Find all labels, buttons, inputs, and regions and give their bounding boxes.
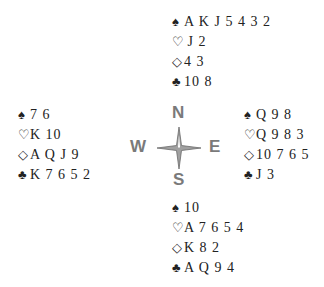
north-diamonds: ◇4 3 [172, 52, 271, 72]
heart-icon: ♡ [18, 125, 30, 145]
diamond-icon: ◇ [172, 52, 184, 72]
south-hand: ♠10 ♡A 7 6 5 4 ◇K 8 2 ♣A Q 9 4 [172, 198, 244, 278]
heart-icon: ♡ [244, 125, 256, 145]
spade-icon: ♠ [244, 105, 256, 125]
east-hand: ♠Q 9 8 ♡Q 9 8 3 ◇10 7 6 5 ♣J 3 [244, 105, 310, 185]
north-spades: ♠A K J 5 4 3 2 [172, 12, 271, 32]
spade-icon: ♠ [18, 105, 30, 125]
west-diamonds: ◇A Q J 9 [18, 145, 91, 165]
west-clubs: ♣K 7 6 5 2 [18, 165, 91, 185]
south-hearts: ♡A 7 6 5 4 [172, 218, 244, 238]
east-spades: ♠Q 9 8 [244, 105, 310, 125]
north-hand: ♠A K J 5 4 3 2 ♡ J 2 ◇4 3 ♣10 8 [172, 12, 271, 92]
north-hearts: ♡ J 2 [172, 32, 271, 52]
north-clubs: ♣10 8 [172, 72, 271, 92]
heart-icon: ♡ [172, 32, 184, 52]
south-spades: ♠10 [172, 198, 244, 218]
west-spades: ♠7 6 [18, 105, 91, 125]
diamond-icon: ◇ [18, 145, 30, 165]
compass-star-icon [157, 127, 201, 169]
west-hand: ♠7 6 ♡K 10 ◇A Q J 9 ♣K 7 6 5 2 [18, 105, 91, 185]
compass-north: N [172, 103, 184, 123]
west-hearts: ♡K 10 [18, 125, 91, 145]
spade-icon: ♠ [172, 198, 184, 218]
east-diamonds: ◇10 7 6 5 [244, 145, 310, 165]
east-clubs: ♣J 3 [244, 165, 310, 185]
south-diamonds: ◇K 8 2 [172, 238, 244, 258]
compass-east: E [209, 137, 220, 157]
compass-west: W [130, 137, 146, 157]
club-icon: ♣ [172, 258, 184, 278]
heart-icon: ♡ [172, 218, 184, 238]
diamond-icon: ◇ [172, 238, 184, 258]
club-icon: ♣ [172, 72, 184, 92]
south-clubs: ♣A Q 9 4 [172, 258, 244, 278]
compass: N W E S [128, 100, 228, 195]
spade-icon: ♠ [172, 12, 184, 32]
diamond-icon: ◇ [244, 145, 256, 165]
club-icon: ♣ [244, 165, 256, 185]
east-hearts: ♡Q 9 8 3 [244, 125, 310, 145]
club-icon: ♣ [18, 165, 30, 185]
compass-south: S [173, 170, 184, 190]
